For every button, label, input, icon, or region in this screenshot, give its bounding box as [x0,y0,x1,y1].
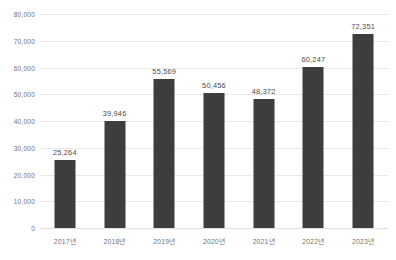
x-axis-tick-label: 2018년 [103,236,125,246]
x-axis-tick-label: 2017년 [54,236,76,246]
bar-value-label: 50,456 [202,81,226,90]
bar-group: 60,2472022년 [289,14,339,228]
y-axis-tick-label: 0 [0,225,35,232]
bar-value-label: 55,569 [152,67,176,76]
bar-group: 25,2642017년 [40,14,90,228]
gridline [40,228,388,229]
y-axis-tick-label: 30,000 [0,144,35,151]
bar[interactable] [104,121,125,228]
x-axis-tick-label: 2020년 [203,236,225,246]
y-axis-tick-label: 60,000 [0,64,35,71]
plot-area: 010,00020,00030,00040,00050,00060,00070,… [40,14,388,228]
y-axis-tick-label: 40,000 [0,118,35,125]
y-axis-tick-label: 50,000 [0,91,35,98]
bar[interactable] [353,34,374,228]
bar-value-label: 72,351 [351,22,375,31]
x-axis-tick-label: 2021년 [253,236,275,246]
bar-group: 50,4562020년 [189,14,239,228]
bar-group: 39,9462018년 [90,14,140,228]
x-axis-tick-label: 2023년 [352,236,374,246]
y-axis-tick-label: 80,000 [0,11,35,18]
y-axis-tick-label: 70,000 [0,37,35,44]
chart-title [0,0,396,7]
bar-chart: 010,00020,00030,00040,00050,00060,00070,… [0,0,396,260]
bar-value-label: 48,372 [252,87,276,96]
bar-group: 55,5692019년 [139,14,189,228]
y-axis-tick-label: 10,000 [0,198,35,205]
bar[interactable] [203,93,224,228]
bar[interactable] [54,160,75,228]
bar-value-label: 39,946 [103,109,127,118]
bar-value-label: 25,264 [53,148,77,157]
bar-group: 72,3512023년 [338,14,388,228]
bar[interactable] [303,67,324,228]
y-axis-tick-label: 20,000 [0,171,35,178]
x-axis-tick-label: 2019년 [153,236,175,246]
bar[interactable] [253,99,274,228]
bar-value-label: 60,247 [302,55,326,64]
bar[interactable] [154,79,175,228]
bar-group: 48,3722021년 [239,14,289,228]
x-axis-tick-label: 2022년 [302,236,324,246]
